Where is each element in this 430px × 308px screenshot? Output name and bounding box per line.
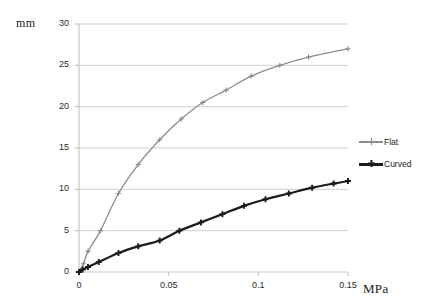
x-tick-label: 0	[59, 280, 99, 290]
legend-label-curved: Curved	[384, 159, 411, 169]
series-line	[79, 49, 348, 272]
data-point-marker	[306, 54, 311, 59]
x-tick-label: 0.15	[328, 280, 368, 290]
series-flat	[76, 46, 350, 274]
data-point-marker	[345, 178, 351, 184]
data-point-marker	[219, 211, 225, 217]
data-point-marker	[98, 228, 103, 233]
y-tick-label: 30	[43, 18, 69, 28]
legend-marker-flat	[368, 138, 375, 145]
chart-figure: mm MPa Flat Curved 05101520253000.050.10…	[0, 0, 430, 308]
series-curved	[76, 178, 351, 275]
data-point-marker	[345, 46, 350, 51]
data-point-marker	[81, 261, 86, 266]
data-point-marker	[115, 250, 121, 256]
data-point-marker	[263, 196, 269, 202]
data-point-marker	[241, 203, 247, 209]
y-tick-label: 20	[43, 101, 69, 111]
legend-item-curved[interactable]: Curved	[359, 153, 427, 175]
y-tick-label: 25	[43, 59, 69, 69]
data-point-marker	[198, 219, 204, 225]
legend-swatch-curved	[359, 159, 383, 169]
data-point-marker	[135, 243, 141, 249]
y-tick-label: 15	[43, 142, 69, 152]
data-point-marker	[277, 63, 282, 68]
y-tick-label: 5	[43, 225, 69, 235]
data-point-marker	[331, 181, 337, 187]
data-point-marker	[223, 88, 228, 93]
legend-marker-curved	[368, 160, 375, 167]
x-tick-label: 0.05	[149, 280, 189, 290]
data-point-marker	[85, 249, 90, 254]
legend-label-flat: Flat	[384, 137, 398, 147]
y-tick-label: 0	[43, 266, 69, 276]
y-tick-label: 10	[43, 183, 69, 193]
data-point-marker	[286, 190, 292, 196]
legend-item-flat[interactable]: Flat	[359, 131, 427, 153]
chart-legend: Flat Curved	[359, 131, 427, 175]
series-line	[79, 181, 348, 272]
x-tick-label: 0.1	[238, 280, 278, 290]
data-point-marker	[249, 73, 254, 78]
data-point-marker	[116, 191, 121, 196]
legend-swatch-flat	[359, 137, 383, 147]
data-point-marker	[157, 238, 163, 244]
